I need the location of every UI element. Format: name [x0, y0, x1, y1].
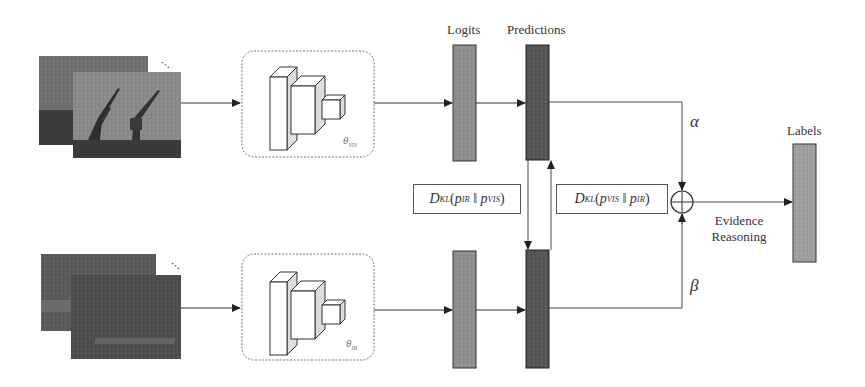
beta-weight-label: β — [690, 276, 698, 296]
kl-ir-vis-box: DKL(pIR ‖ pVIS) — [413, 184, 521, 214]
theta-vis-label: θVIS — [343, 134, 357, 148]
oplus-fusion-icon — [671, 191, 693, 213]
predictions-header: Predictions — [507, 22, 566, 38]
alpha-weight-label: α — [690, 112, 699, 132]
labels-header: Labels — [787, 123, 822, 139]
theta-ir-label: θIR — [346, 337, 357, 351]
logits-header: Logits — [447, 22, 480, 38]
kl-vis-ir-box: DKL(pVIS ‖ pIR) — [556, 184, 668, 214]
reasoning-label-line2: Reasoning — [706, 229, 772, 245]
evidence-reasoning-label: Evidence Reasoning — [706, 213, 772, 245]
evidence-label-line1: Evidence — [706, 213, 772, 229]
infrared-image-stack — [41, 254, 181, 359]
visible-image-stack — [39, 56, 181, 158]
